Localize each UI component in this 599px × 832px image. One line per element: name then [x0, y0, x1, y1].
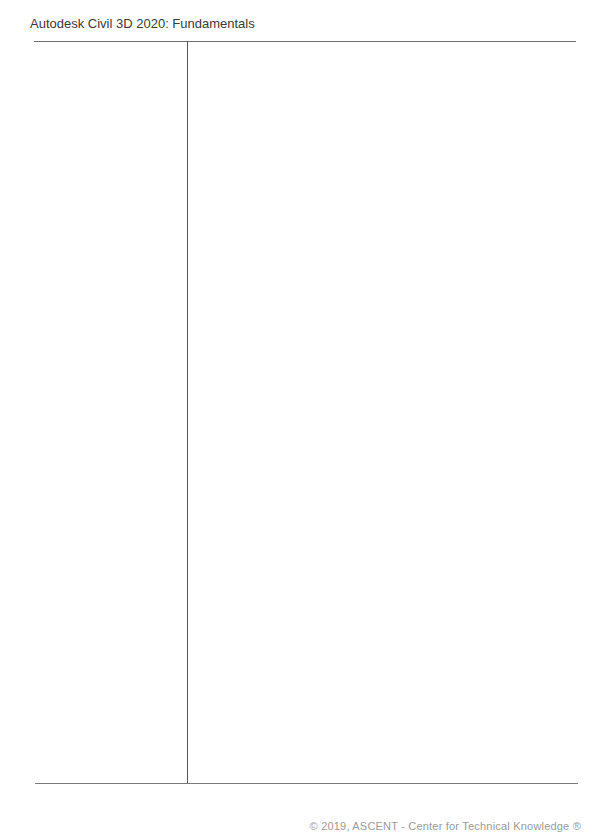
document-title: Autodesk Civil 3D 2020: Fundamentals [30, 16, 255, 31]
footer-rule [35, 783, 578, 784]
copyright-text: © 2019, ASCENT - Center for Technical Kn… [310, 820, 581, 832]
main-content-column [189, 42, 577, 782]
side-column [34, 42, 186, 782]
column-divider [187, 41, 188, 783]
